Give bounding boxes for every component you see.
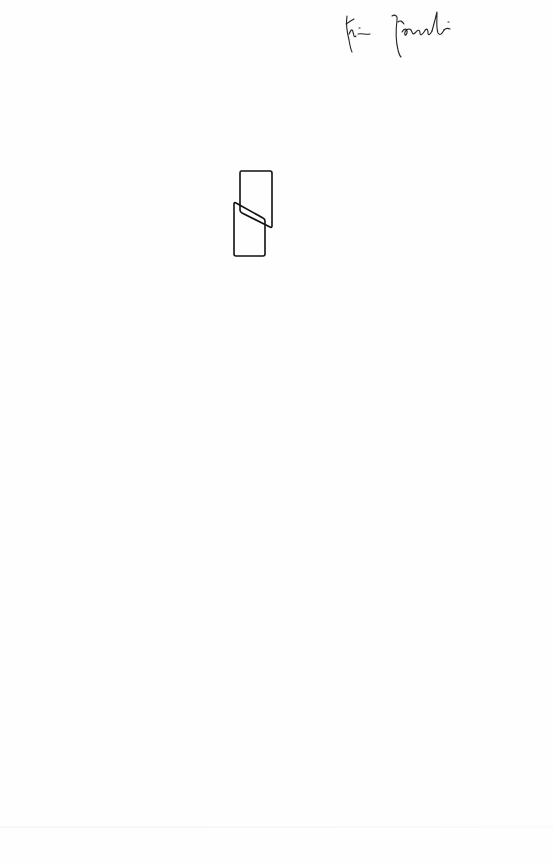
handwritten-signature <box>340 6 455 58</box>
abstract-line-drawing <box>230 168 276 260</box>
upper-shape <box>240 171 272 227</box>
lower-shape <box>234 203 265 256</box>
scan-artifact <box>0 826 553 828</box>
scanned-page <box>0 0 553 862</box>
